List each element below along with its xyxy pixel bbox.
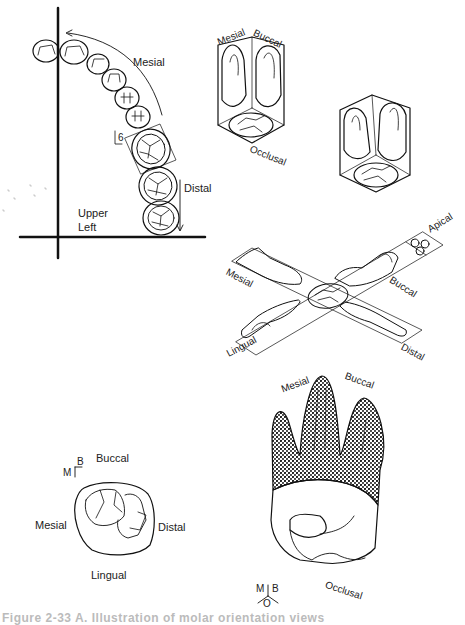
box-view-labeled	[218, 37, 284, 143]
box-view-unlabeled	[340, 95, 410, 192]
label-orient-m: M	[63, 468, 71, 478]
label-quadrant-upper: Upper	[78, 208, 108, 219]
perspective-molar	[258, 376, 384, 603]
label-mesial-arch: Mesial	[133, 57, 165, 68]
label-orient-m-persp: M	[256, 584, 264, 594]
label-distal-arch: Distal	[184, 183, 212, 194]
label-orient-o-persp: O	[263, 599, 271, 609]
label-distal-occlusal: Distal	[158, 522, 186, 533]
label-buccal-occlusal: Buccal	[96, 453, 129, 464]
label-orient-b-persp: B	[272, 584, 279, 594]
label-tooth-number: 6	[118, 133, 124, 143]
label-quadrant-left: Left	[78, 222, 96, 233]
figure-caption: Figure 2-33 A. Illustration of molar ori…	[2, 611, 325, 625]
label-mesial-occlusal: Mesial	[35, 520, 67, 531]
occlusal-view	[75, 467, 154, 555]
label-orient-b: B	[77, 457, 84, 467]
label-lingual-occlusal: Lingual	[91, 570, 126, 581]
arch-quadrant-diagram	[3, 8, 205, 258]
